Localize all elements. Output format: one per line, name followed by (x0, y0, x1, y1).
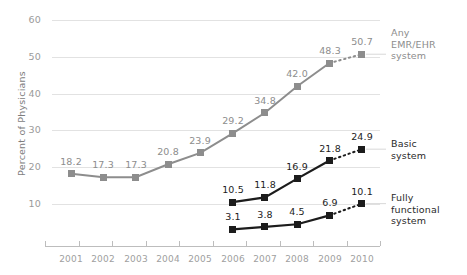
data-point-marker (294, 83, 301, 90)
data-point-label: 21.8 (310, 143, 350, 154)
data-point-label: 10.1 (342, 186, 382, 197)
legend-line-3: system (391, 50, 467, 62)
legend-line-2: EMR/EHR (391, 39, 467, 51)
x-axis-line (45, 246, 380, 247)
data-point-marker (100, 174, 107, 181)
data-point-label: 29.2 (213, 115, 253, 126)
data-point-label: 34.8 (245, 95, 285, 106)
y-tick-label: 10 (19, 198, 41, 209)
data-point-label: 17.3 (116, 159, 156, 170)
y-tick-label: 50 (19, 51, 41, 62)
y-tick-label: 60 (19, 14, 41, 25)
x-tick-label: 2004 (151, 254, 185, 264)
data-point-marker (165, 161, 172, 168)
y-tick-label: 20 (19, 161, 41, 172)
data-point-marker (326, 60, 333, 67)
legend-line-3: system (391, 215, 467, 227)
x-tick-label: 2009 (313, 254, 347, 264)
data-point-marker (68, 170, 75, 177)
legend-line-1: Fully (391, 192, 467, 204)
data-point-label: 23.9 (180, 135, 220, 146)
x-tick (213, 241, 214, 246)
x-tick (313, 241, 314, 246)
x-tick (179, 241, 180, 246)
data-point-marker (326, 157, 333, 164)
gridline (52, 57, 380, 58)
x-tick (79, 241, 80, 246)
data-point-label: 50.7 (342, 36, 382, 47)
x-tick-label: 2003 (119, 254, 153, 264)
data-point-marker (358, 51, 365, 58)
data-point-marker (358, 200, 365, 207)
x-tick (112, 241, 113, 246)
data-point-label: 16.9 (277, 161, 317, 172)
x-tick (380, 241, 381, 246)
data-point-marker (229, 199, 236, 206)
y-tick-label: 40 (19, 88, 41, 99)
data-point-label: 11.8 (245, 179, 285, 190)
data-point-label: 6.9 (310, 197, 350, 208)
legend-line-2: system (391, 150, 467, 162)
x-tick-label: 2002 (86, 254, 120, 264)
x-tick-label: 2001 (54, 254, 88, 264)
x-tick (146, 241, 147, 246)
legend-item-any-emr: Any EMR/EHR system (391, 27, 467, 62)
data-point-marker (132, 174, 139, 181)
legend-line-1: Any (391, 27, 467, 39)
gridline (52, 130, 380, 131)
x-tick-label: 2006 (216, 254, 250, 264)
data-point-label: 42.0 (277, 68, 317, 79)
data-point-marker (294, 221, 301, 228)
chart-container: Percent of Physicians 102030405060 18.21… (0, 0, 467, 275)
x-tick (45, 241, 46, 246)
legend-item-fully-functional-system: Fully functional system (391, 192, 467, 227)
y-tick-label: 30 (19, 124, 41, 135)
data-point-label: 24.9 (342, 131, 382, 142)
data-point-marker (261, 109, 268, 116)
data-point-marker (261, 194, 268, 201)
x-tick (280, 241, 281, 246)
gridline (52, 20, 380, 21)
data-point-marker (229, 130, 236, 137)
data-point-marker (197, 149, 204, 156)
data-point-marker (294, 175, 301, 182)
x-tick-label: 2008 (280, 254, 314, 264)
legend-line-1: Basic (391, 138, 467, 150)
data-point-marker (229, 226, 236, 233)
legend-item-basic-system: Basic system (391, 138, 467, 161)
data-point-marker (358, 146, 365, 153)
x-tick-label: 2005 (183, 254, 217, 264)
x-tick (347, 241, 348, 246)
data-point-marker (261, 223, 268, 230)
gridline (52, 94, 380, 95)
x-tick-label: 2010 (345, 254, 379, 264)
x-tick-label: 2007 (248, 254, 282, 264)
x-tick (246, 241, 247, 246)
data-point-marker (326, 212, 333, 219)
data-point-label: 20.8 (148, 146, 188, 157)
legend-line-2: functional (391, 204, 467, 216)
